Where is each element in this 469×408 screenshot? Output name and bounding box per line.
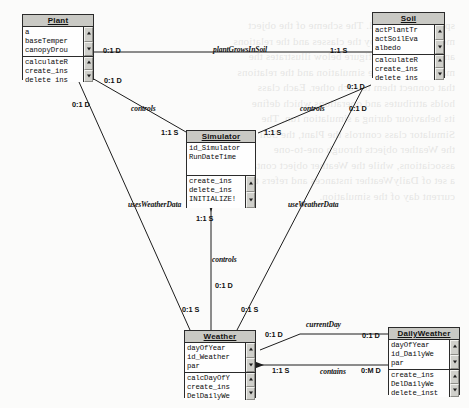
relation-label-sim-weather-controls: controls bbox=[212, 255, 237, 264]
class-title-weather: Weather bbox=[185, 331, 255, 343]
class-operations-simulator: create_ins delete_ins INITIALIZE! bbox=[187, 175, 255, 208]
multiplicity-soil-uses-weather-from: 0:1 D bbox=[349, 104, 367, 113]
scroll-up-icon[interactable] bbox=[435, 55, 444, 68]
multiplicity-plant-controls-from: 0:1 D bbox=[104, 76, 122, 85]
scroll-down-icon[interactable] bbox=[246, 192, 255, 208]
relation-label-plant-controls: controls bbox=[131, 104, 156, 113]
operations-scrollbar[interactable] bbox=[245, 373, 255, 400]
class-operations-soil: calculateR create_ins delete_ins bbox=[373, 54, 444, 80]
multiplicity-soil-controls-to: 1:1 S bbox=[264, 128, 281, 137]
class-attributes-dailyweather: dayOfYear id_DailyWe par bbox=[389, 340, 459, 369]
class-title-plant: Plant bbox=[23, 15, 93, 27]
multiplicity-contains-from: 1:1 S bbox=[272, 366, 289, 375]
relation-label-plant-uses-weather: usesWeatherData bbox=[128, 200, 181, 209]
class-box-plant[interactable]: Plant a baseTemper canopyDrou calculateR… bbox=[22, 14, 94, 80]
relation-label-soil-uses-weather: useWeatherData bbox=[288, 200, 338, 209]
attribute-row: RunDateTime bbox=[189, 153, 255, 162]
multiplicity-soil-controls-from: 0:1 D bbox=[347, 82, 365, 91]
class-attributes-soil: actPlantTr actSoilEva albedo bbox=[373, 25, 444, 54]
scroll-down-icon[interactable] bbox=[246, 358, 255, 373]
multiplicity-sim-weather-to: 0:1 D bbox=[215, 281, 233, 290]
class-box-soil[interactable]: Soil actPlantTr actSoilEva albedo calcul… bbox=[372, 12, 445, 78]
multiplicity-current-day-from: 0:1 D bbox=[265, 330, 283, 339]
scroll-down-icon[interactable] bbox=[84, 70, 93, 83]
multiplicity-plant-controls-to: 1:1 S bbox=[161, 128, 178, 137]
attribute-row: id_Simulator bbox=[189, 144, 255, 153]
scroll-down-icon[interactable] bbox=[435, 68, 444, 81]
scroll-up-icon[interactable] bbox=[246, 343, 255, 358]
class-box-weather[interactable]: Weather dayOfYear id_Weather par calcDay… bbox=[184, 330, 256, 398]
scroll-down-icon[interactable] bbox=[435, 40, 444, 55]
uml-class-diagram-canvas: sphere and the soil. The scheme of the o… bbox=[0, 0, 469, 408]
class-operations-weather: calcDayOfY create_ins DelDailyWe bbox=[185, 372, 255, 400]
class-operations-plant: calculateR create_ins delete_ins bbox=[23, 56, 93, 82]
scroll-up-icon[interactable] bbox=[246, 373, 255, 387]
operations-scrollbar[interactable] bbox=[83, 57, 93, 82]
scroll-up-icon[interactable] bbox=[84, 57, 93, 70]
class-attributes-plant: a baseTemper canopyDrou bbox=[23, 27, 93, 56]
relation-label-plant-grows-in-soil: plantGrowsInSoil bbox=[213, 45, 267, 54]
class-operations-dailyweather: create_ins DelDailyWe delete_inst bbox=[389, 369, 459, 397]
operations-scrollbar[interactable] bbox=[245, 176, 255, 208]
wire-soil-uses-weather bbox=[237, 88, 363, 330]
class-title-dailyweather: DailyWeather bbox=[389, 328, 459, 340]
class-attributes-weather: dayOfYear id_Weather par bbox=[185, 343, 255, 372]
relation-label-contains: contains bbox=[320, 367, 346, 376]
attributes-scrollbar[interactable] bbox=[83, 27, 93, 56]
multiplicity-soil-uses-weather-to: 0:1 S bbox=[241, 305, 258, 314]
attributes-scrollbar[interactable] bbox=[449, 340, 459, 369]
relation-label-current-day: currentDay bbox=[306, 320, 341, 329]
multiplicity-plant-uses-weather-from: 0:1 D bbox=[72, 100, 90, 109]
multiplicity-sim-weather-from: 1:1 S bbox=[196, 214, 213, 223]
scroll-up-icon[interactable] bbox=[450, 370, 459, 384]
class-box-dailyweather[interactable]: DailyWeather dayOfYear id_DailyWe par cr… bbox=[388, 327, 460, 395]
scroll-up-icon[interactable] bbox=[435, 25, 444, 40]
class-attributes-simulator: id_Simulator RunDateTime bbox=[187, 143, 255, 175]
scroll-down-icon[interactable] bbox=[84, 42, 93, 57]
scroll-down-icon[interactable] bbox=[246, 387, 255, 401]
multiplicity-plant-grows-in-soil-to: 1:1 S bbox=[330, 46, 347, 55]
multiplicity-plant-grows-in-soil-from: 0:1 D bbox=[103, 46, 121, 55]
multiplicity-contains-to: 0:M D bbox=[361, 366, 381, 375]
class-title-simulator: Simulator bbox=[187, 131, 255, 143]
attributes-scrollbar[interactable] bbox=[434, 25, 444, 54]
class-title-soil: Soil bbox=[373, 13, 444, 25]
scroll-up-icon[interactable] bbox=[450, 340, 459, 355]
attributes-scrollbar[interactable] bbox=[245, 343, 255, 372]
class-box-simulator[interactable]: Simulator id_Simulator RunDateTime creat… bbox=[186, 130, 256, 208]
scroll-up-icon[interactable] bbox=[246, 176, 255, 192]
scroll-up-icon[interactable] bbox=[84, 27, 93, 42]
scroll-down-icon[interactable] bbox=[450, 384, 459, 398]
multiplicity-plant-uses-weather-to: 0:1 S bbox=[182, 305, 199, 314]
multiplicity-current-day-to: 0:1 D bbox=[362, 331, 380, 340]
scroll-down-icon[interactable] bbox=[450, 355, 459, 370]
operations-scrollbar[interactable] bbox=[449, 370, 459, 397]
relation-label-soil-controls: controls bbox=[300, 104, 325, 113]
operations-scrollbar[interactable] bbox=[434, 55, 444, 80]
